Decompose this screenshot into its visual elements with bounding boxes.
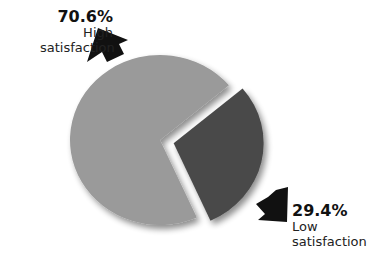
high-line2: satisfaction: [40, 41, 113, 56]
label-low-satisfaction: 29.4% Low satisfaction: [292, 202, 367, 250]
low-percent: 29.4%: [292, 202, 367, 220]
label-high-satisfaction: 70.6% High satisfaction: [40, 8, 113, 56]
high-percent: 70.6%: [40, 8, 113, 26]
low-line2: satisfaction: [292, 235, 367, 250]
low-line1: Low: [292, 220, 367, 235]
arrow-low-icon: [256, 187, 288, 222]
high-line1: High: [40, 26, 113, 41]
